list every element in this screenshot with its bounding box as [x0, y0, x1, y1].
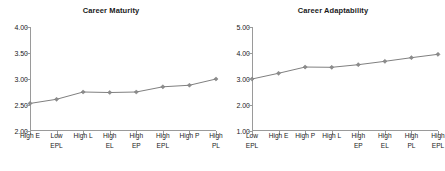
series-plot: [30, 27, 216, 131]
x-tick-label: High L: [322, 131, 341, 141]
x-axis-labels: LowEPLHigh EHigh PHigh LHighEPHighELHigh…: [252, 131, 438, 165]
x-tick-label: High P: [295, 131, 315, 141]
x-tick-label-line: High L: [322, 131, 341, 141]
y-tick-mark: [26, 105, 30, 106]
data-point-marker: [330, 65, 334, 69]
x-tick-label-line: EPL: [156, 141, 170, 151]
chart-panel-career-maturity: Career Maturity 2.002.503.003.504.00 Hig…: [0, 0, 222, 171]
y-tick-mark: [248, 27, 252, 28]
x-tick-label-line: High: [431, 131, 445, 141]
x-tick-label-line: PL: [209, 141, 223, 151]
plot-area: 2.002.503.003.504.00: [0, 22, 222, 142]
data-point-marker: [108, 90, 112, 94]
y-tick-mark: [26, 79, 30, 80]
x-tick-label-line: Low: [50, 131, 62, 141]
x-tick-label-line: High E: [269, 131, 289, 141]
chart-panel-career-adaptability: Career Adaptability 1.002.003.004.005.00…: [222, 0, 444, 171]
x-tick-label: HighEP: [352, 131, 366, 150]
y-tick-mark: [26, 53, 30, 54]
data-point-marker: [214, 77, 218, 81]
data-point-marker: [409, 56, 413, 60]
axes: [252, 27, 438, 131]
series-plot: [252, 27, 438, 131]
x-tick-label-line: EP: [352, 141, 366, 151]
x-tick-label-line: High E: [20, 131, 40, 141]
data-point-marker: [356, 63, 360, 67]
data-point-marker: [187, 83, 191, 87]
x-tick-label-line: High: [405, 131, 419, 141]
x-tick-label-line: Low: [246, 131, 258, 141]
x-tick-label: High E: [269, 131, 289, 141]
x-tick-label-line: High P: [295, 131, 315, 141]
x-tick-label: HighEL: [378, 131, 392, 150]
x-tick-label: HighPL: [209, 131, 223, 150]
x-tick-label: HighEPL: [156, 131, 170, 150]
y-axis-labels: 1.002.003.004.005.00: [224, 22, 250, 126]
x-tick-label-line: EPL: [50, 141, 62, 151]
chart-title: Career Maturity: [0, 6, 222, 15]
x-axis-labels: High ELowEPLHigh LHighELHighEPHighEPLHig…: [30, 131, 216, 165]
x-tick-label: HighEL: [103, 131, 117, 150]
data-point-marker: [276, 71, 280, 75]
chart-title: Career Adaptability: [222, 6, 444, 15]
plot-area: 1.002.003.004.005.00: [222, 22, 444, 142]
data-point-marker: [436, 52, 440, 56]
x-tick-label-line: EPL: [431, 141, 445, 151]
x-tick-label-line: PL: [405, 141, 419, 151]
y-tick-mark: [248, 105, 252, 106]
x-tick-label: High L: [74, 131, 93, 141]
x-tick-label: HighPL: [405, 131, 419, 150]
x-tick-label: High P: [180, 131, 200, 141]
axes: [30, 27, 216, 131]
data-point-marker: [303, 65, 307, 69]
x-tick-label: LowEPL: [246, 131, 258, 150]
x-tick-label: HighEP: [130, 131, 144, 150]
x-tick-label: HighEPL: [431, 131, 445, 150]
data-point-marker: [161, 85, 165, 89]
x-tick-label-line: EL: [103, 141, 117, 151]
x-tick-label: LowEPL: [50, 131, 62, 150]
x-tick-label-line: EP: [130, 141, 144, 151]
x-tick-label-line: High: [130, 131, 144, 141]
x-tick-label-line: High: [156, 131, 170, 141]
x-tick-label-line: High L: [74, 131, 93, 141]
data-point-marker: [81, 90, 85, 94]
data-point-marker: [54, 97, 58, 101]
data-point-marker: [134, 90, 138, 94]
y-axis-labels: 2.002.503.003.504.00: [2, 22, 28, 126]
x-tick-label-line: High: [378, 131, 392, 141]
y-tick-mark: [248, 79, 252, 80]
y-tick-mark: [248, 53, 252, 54]
x-tick-label-line: High: [352, 131, 366, 141]
x-tick-label-line: EPL: [246, 141, 258, 151]
y-tick-mark: [26, 27, 30, 28]
x-tick-label-line: High P: [180, 131, 200, 141]
data-point-marker: [383, 59, 387, 63]
x-tick-label-line: EL: [378, 141, 392, 151]
x-tick-label-line: High: [209, 131, 223, 141]
x-tick-label-line: High: [103, 131, 117, 141]
x-tick-label: High E: [20, 131, 40, 141]
